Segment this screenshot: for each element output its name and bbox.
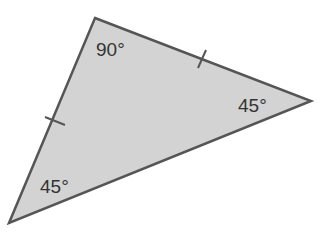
angle-label-bottom-left: 45°: [40, 176, 69, 197]
angle-label-top: 90°: [96, 39, 125, 60]
angle-label-right: 45°: [238, 95, 267, 116]
triangle-figure: 90° 45° 45°: [0, 0, 330, 240]
